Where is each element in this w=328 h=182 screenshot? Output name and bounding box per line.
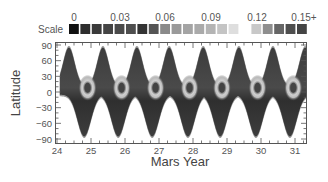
- colorbar-swatch: [183, 24, 193, 34]
- colorbar-swatch: [160, 24, 170, 34]
- colorbar-tick-label: 0.15+: [291, 12, 316, 23]
- y-tick-label: −60: [36, 118, 52, 129]
- colorbar-tick-labels: 00.030.060.090.120.15+: [71, 12, 317, 23]
- chart: Scale 00.030.060.090.120.15+: [0, 0, 328, 182]
- colorbar-tick-label: 0.09: [201, 12, 221, 23]
- colorbar-swatch: [115, 24, 125, 34]
- colorbar-swatch: [286, 24, 296, 34]
- y-tick-label: 30: [41, 71, 52, 82]
- y-tick-label: 90: [41, 40, 52, 51]
- colorbar-swatch: [297, 24, 307, 34]
- colorbar-swatches: [69, 24, 307, 34]
- y-tick-label: 60: [41, 55, 52, 66]
- colorbar-swatch: [229, 24, 239, 34]
- y-axis-title: Latitude: [8, 70, 23, 116]
- colorbar-label: Scale: [38, 24, 63, 35]
- x-tick-label: 24: [52, 145, 63, 156]
- x-tick-label: 25: [86, 145, 97, 156]
- colorbar-swatch: [274, 24, 284, 34]
- colorbar-swatch: [69, 24, 79, 34]
- colorbar-swatch: [206, 24, 216, 34]
- colorbar-swatch: [126, 24, 136, 34]
- x-tick-label: 30: [256, 145, 267, 156]
- colorbar: Scale 00.030.060.090.120.15+: [38, 12, 317, 35]
- colorbar-tick-label: 0.03: [110, 12, 130, 23]
- colorbar-swatch: [217, 24, 227, 34]
- x-tick-label: 29: [222, 145, 233, 156]
- colorbar-swatch: [263, 24, 273, 34]
- colorbar-swatch: [251, 24, 261, 34]
- colorbar-swatch: [103, 24, 113, 34]
- colorbar-swatch: [80, 24, 90, 34]
- x-tick-label: 26: [120, 145, 131, 156]
- colorbar-tick-label: 0.06: [155, 12, 175, 23]
- colorbar-swatch: [137, 24, 147, 34]
- x-axis-title: Mars Year: [151, 154, 210, 169]
- y-tick-label: −90: [36, 134, 52, 145]
- colorbar-swatch: [240, 24, 250, 34]
- y-tick-label: 0: [47, 87, 52, 98]
- colorbar-swatch: [172, 24, 182, 34]
- plot-area: 2425262728293031 9060300−30−60−90: [36, 40, 307, 157]
- colorbar-swatch: [92, 24, 102, 34]
- y-tick-label: −30: [36, 102, 52, 113]
- colorbar-swatch: [194, 24, 204, 34]
- colorbar-tick-label: 0.12: [247, 12, 267, 23]
- colorbar-swatch: [149, 24, 159, 34]
- colorbar-tick-label: 0: [71, 12, 77, 23]
- x-tick-label: 31: [290, 145, 301, 156]
